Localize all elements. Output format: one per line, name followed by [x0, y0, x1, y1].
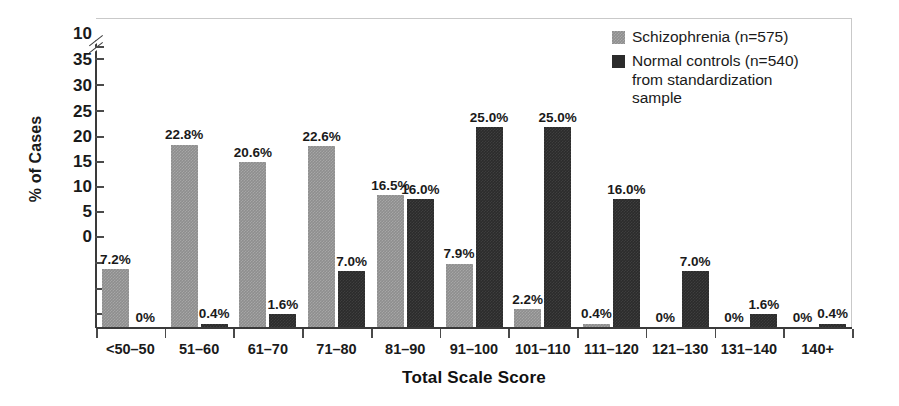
y-tick-label: 15	[34, 153, 92, 170]
x-tick-label: 111–120	[577, 341, 646, 357]
x-tick-mark	[783, 329, 785, 338]
bar	[407, 199, 434, 327]
x-tick-mark	[715, 329, 717, 338]
y-tick-label: 10	[34, 178, 92, 195]
bar-value-label: 0.4%	[812, 307, 853, 321]
bar-value-label: 7.0%	[331, 255, 372, 269]
bar	[338, 271, 365, 327]
bar	[377, 195, 404, 327]
x-tick-mark	[440, 329, 442, 338]
bar-value-label: 7.0%	[675, 255, 716, 269]
chart-legend: Schizophrenia (n=575) Normal controls (n…	[612, 28, 874, 113]
bar	[613, 199, 640, 327]
bar	[308, 146, 335, 327]
y-tick-label: 20	[34, 128, 92, 145]
x-tick-label: 101–110	[508, 341, 577, 357]
bar-value-label: 20.6%	[232, 146, 273, 160]
x-axis-line	[96, 327, 852, 329]
x-tick-label: 121–130	[646, 341, 715, 357]
bar-value-label: 0.4%	[194, 307, 235, 321]
bar	[682, 271, 709, 327]
bar	[269, 314, 296, 327]
legend-label-line-3: sample	[632, 89, 682, 106]
x-tick-label: 51–60	[165, 341, 234, 357]
bar-value-label: 16.0%	[400, 183, 441, 197]
x-tick-label: <50–50	[96, 341, 165, 357]
bar	[171, 145, 198, 327]
bar-value-label: 22.6%	[301, 130, 342, 144]
bar	[514, 309, 541, 327]
y-tick-label: 25	[34, 103, 92, 120]
y-tick-label: 30	[34, 77, 92, 94]
x-tick-label: 91–100	[440, 341, 509, 357]
bar-value-label: 1.6%	[743, 298, 784, 312]
x-tick-label: 81–90	[371, 341, 440, 357]
bar-value-label: 0%	[645, 311, 686, 325]
bar-value-label: 7.9%	[439, 247, 480, 261]
legend-label-normal-controls: Normal controls (n=540) from standardiza…	[632, 52, 799, 107]
legend-label-schizophrenia: Schizophrenia (n=575)	[632, 28, 788, 46]
x-tick-mark	[233, 329, 235, 338]
bar-value-label: 1.6%	[262, 298, 303, 312]
bar-value-label: 7.2%	[95, 253, 136, 267]
x-tick-mark	[165, 329, 167, 338]
x-tick-mark	[302, 329, 304, 338]
bar-value-label: 25.0%	[469, 111, 510, 125]
bar	[750, 314, 777, 327]
x-tick-mark	[96, 329, 98, 338]
legend-swatch-icon-normal-controls	[612, 55, 625, 68]
bar-value-label: 16.0%	[606, 183, 647, 197]
y-tick-label: 5	[34, 203, 92, 220]
x-tick-mark	[371, 329, 373, 338]
x-axis-title: Total Scale Score	[96, 368, 852, 388]
legend-label-line-2: from standardization	[632, 71, 772, 88]
y-tick-labels: 1035302520151050	[30, 0, 92, 340]
legend-swatch-icon-schizophrenia	[612, 31, 625, 44]
bar-value-label: 2.2%	[507, 293, 548, 307]
bar-value-label: 25.0%	[537, 111, 578, 125]
chart-figure: % of Cases 1035302520151050 7.2%0%22.8%0…	[0, 0, 899, 406]
x-tick-mark	[646, 329, 648, 338]
bar-value-label: 0%	[713, 311, 754, 325]
x-tick-mark	[852, 329, 854, 338]
legend-item-schizophrenia: Schizophrenia (n=575)	[612, 28, 874, 46]
bar-value-label: 22.8%	[164, 128, 205, 142]
x-tick-label: 131–140	[715, 341, 784, 357]
bar-value-label: 0.4%	[576, 307, 617, 321]
bar	[446, 264, 473, 327]
y-tick-label: 35	[34, 51, 92, 68]
x-tick-mark	[508, 329, 510, 338]
bar	[476, 127, 503, 327]
x-tick-label: 140+	[783, 341, 852, 357]
legend-item-normal-controls: Normal controls (n=540) from standardiza…	[612, 52, 874, 107]
x-tick-label: 61–70	[233, 341, 302, 357]
bar	[544, 127, 571, 327]
y-tick-label: 10	[34, 25, 92, 42]
x-tick-label: 71–80	[302, 341, 371, 357]
legend-label-line-1: Normal controls (n=540)	[632, 52, 799, 69]
y-tick-label: 0	[34, 228, 92, 245]
bar-value-label: 0%	[125, 311, 166, 325]
x-tick-mark	[577, 329, 579, 338]
